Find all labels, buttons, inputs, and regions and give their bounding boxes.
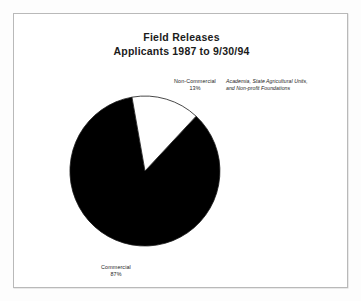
- slice-label-commercial-name: Commercial: [101, 264, 131, 270]
- slice-label-noncommercial-name: Non-Commercial: [174, 78, 216, 84]
- slice-label-noncommercial: Non-Commercial 13%: [164, 78, 226, 92]
- annotation-noncommercial-definition: Academia, State Agricultural Units, and …: [226, 78, 342, 93]
- pie-chart: Non-Commercial 13% Commercial 87% Academ…: [14, 14, 349, 289]
- slice-label-commercial-percent: 87%: [85, 271, 147, 278]
- page-canvas: Field Releases Applicants 1987 to 9/30/9…: [0, 0, 361, 301]
- annotation-line-2: and Non-profit Foundations: [226, 85, 342, 92]
- document-frame: Field Releases Applicants 1987 to 9/30/9…: [13, 13, 348, 288]
- annotation-line-1: Academia, State Agricultural Units,: [226, 78, 342, 85]
- pie-chart-graphic: [60, 86, 230, 256]
- slice-label-noncommercial-percent: 13%: [164, 85, 226, 92]
- slice-label-commercial: Commercial 87%: [85, 264, 147, 278]
